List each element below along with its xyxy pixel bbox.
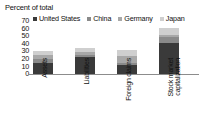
bar-segment[interactable]: [159, 28, 179, 35]
y-axis-tick: 0: [11, 70, 29, 77]
stacked-bar-chart: Percent of total United States China Ger…: [0, 0, 203, 124]
x-axis-label-stock-market-capitalization: Stock market capitalization: [167, 86, 182, 106]
x-axis-label-liabilities: Liabilities: [83, 86, 90, 106]
x-axis-label-foreign-claims: Foreign claims: [125, 86, 132, 106]
x-axis-labels: Assets Liabilities Foreign claims Stock …: [31, 76, 199, 124]
x-axis-label-text: Stock market capitalization: [167, 58, 182, 106]
x-axis-label-text: Liabilities: [83, 58, 90, 106]
x-axis-label-text: Assets: [41, 58, 48, 106]
x-axis-label-text: Foreign claims: [125, 58, 132, 106]
y-axis: 70 60 50 40 30 20 10 0: [11, 17, 29, 79]
x-axis-label-assets: Assets: [41, 86, 48, 106]
chart-axis-title: Percent of total: [5, 3, 53, 12]
